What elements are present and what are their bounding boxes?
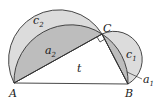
label-t: t xyxy=(77,62,82,75)
lune-diagram: A B C t c2 a2 c1 a1 xyxy=(0,0,162,102)
label-A: A xyxy=(8,87,17,100)
label-B: B xyxy=(124,87,133,100)
label-a1: a1 xyxy=(143,73,154,88)
side-AB xyxy=(14,83,128,84)
label-C: C xyxy=(103,22,112,35)
